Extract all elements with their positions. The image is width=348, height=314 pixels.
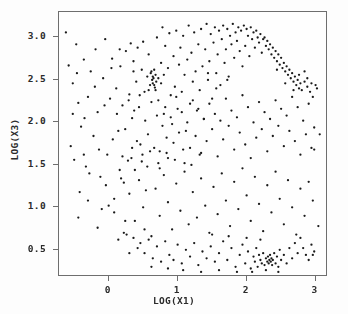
x-tick-mark bbox=[246, 276, 247, 281]
y-tick-mark bbox=[53, 79, 58, 80]
x-tick-label: 0 bbox=[96, 284, 120, 295]
y-tick-mark bbox=[53, 36, 58, 37]
x-tick-mark bbox=[177, 276, 178, 281]
y-axis-label: LOG(X3) bbox=[8, 118, 19, 160]
x-tick-label: 2 bbox=[234, 284, 258, 295]
x-tick-label: 1 bbox=[165, 284, 189, 295]
y-axis-label-wrapper: LOG(X3) bbox=[0, 128, 44, 147]
y-tick-label: 1.0 bbox=[20, 200, 46, 211]
y-tick-label: 3.0 bbox=[20, 30, 46, 41]
x-axis-label: LOG(X1) bbox=[0, 295, 348, 306]
plot-area bbox=[58, 11, 327, 276]
x-tick-label: 3 bbox=[303, 284, 327, 295]
x-tick-mark bbox=[108, 276, 109, 281]
y-tick-label: 1.5 bbox=[20, 158, 46, 169]
y-tick-label: 2.0 bbox=[20, 115, 46, 126]
y-tick-label: 0.5 bbox=[20, 243, 46, 254]
data-points-layer bbox=[59, 12, 327, 276]
y-tick-mark bbox=[53, 249, 58, 250]
y-tick-mark bbox=[53, 206, 58, 207]
x-tick-mark bbox=[315, 276, 316, 281]
y-tick-mark bbox=[53, 164, 58, 165]
scatter-plot-figure: 0123 0.51.01.52.02.53.0 LOG(X1) LOG(X3) bbox=[0, 0, 348, 314]
y-tick-label: 2.5 bbox=[20, 73, 46, 84]
y-tick-mark bbox=[53, 121, 58, 122]
